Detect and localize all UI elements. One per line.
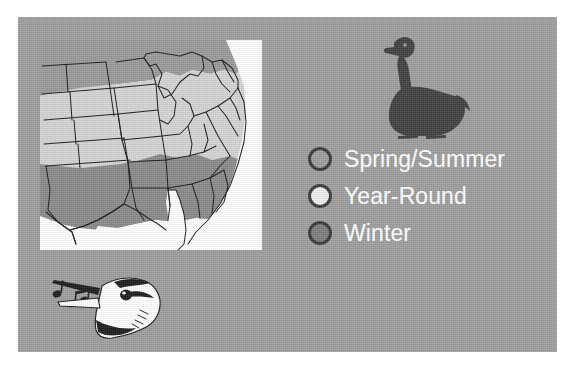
- legend-label-spring-summer: Spring/Summer: [344, 146, 505, 172]
- goose-eye: [403, 43, 407, 47]
- legend-label-year-round: Year-Round: [344, 183, 467, 209]
- circle-icon: [308, 184, 332, 208]
- canada-goose-silhouette: [368, 29, 473, 141]
- legend: Spring/Summer Year-Round Winter: [308, 142, 543, 253]
- legend-item-spring-summer[interactable]: Spring/Summer: [308, 142, 543, 175]
- goose-body: [384, 37, 470, 136]
- us-range-map: [40, 40, 262, 250]
- legend-item-year-round[interactable]: Year-Round: [308, 179, 543, 212]
- singing-bird-illustration: [34, 268, 162, 342]
- singing-bird-svg: [34, 268, 162, 342]
- range-map-panel: Spring/Summer Year-Round Winter: [18, 17, 557, 352]
- screen-root: Spring/Summer Year-Round Winter: [0, 0, 575, 368]
- legend-item-winter[interactable]: Winter: [308, 216, 543, 249]
- bird-eye-highlight: [122, 291, 126, 294]
- legend-label-winter: Winter: [344, 220, 411, 246]
- us-range-map-svg: [40, 40, 262, 250]
- circle-icon: [308, 221, 332, 245]
- circle-icon: [308, 147, 332, 171]
- bird-lower-beak: [58, 298, 100, 308]
- bird-eye: [120, 290, 132, 301]
- goose-svg: [368, 29, 473, 141]
